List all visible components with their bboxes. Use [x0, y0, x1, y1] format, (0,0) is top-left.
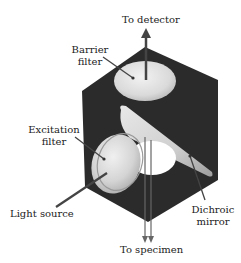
label-barrier-filter-1: Barrier — [70, 44, 110, 55]
label-to-specimen: To specimen — [120, 244, 183, 255]
label-excitation-filter-2: filter — [27, 136, 81, 147]
label-excitation-filter-1: Excitation — [27, 124, 81, 135]
label-to-detector: To detector — [122, 14, 180, 25]
filter-cube-diagram: To detector Barrier filter Excitation fi… — [0, 0, 241, 263]
label-dichroic-mirror-1: Dichroic — [190, 204, 236, 215]
label-barrier-filter-2: filter — [70, 56, 110, 67]
detector-arrowhead — [141, 28, 151, 38]
label-dichroic-mirror-2: mirror — [190, 216, 236, 227]
label-light-source: Light source — [10, 208, 74, 219]
